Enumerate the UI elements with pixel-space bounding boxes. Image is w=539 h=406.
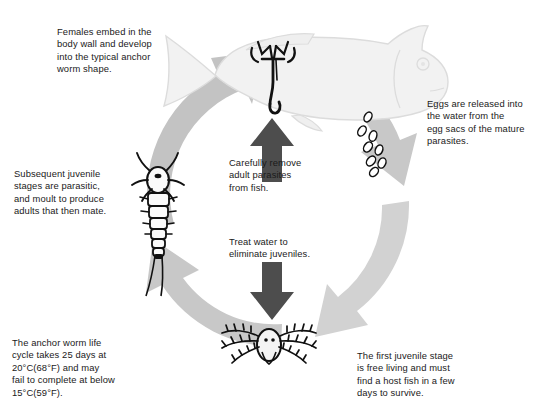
caption-subsequent-juvenile: Subsequent juvenile stages are parasitic…: [14, 168, 146, 218]
caption-first-juvenile-stage: The first juvenile stage is free living …: [357, 350, 489, 400]
caption-remove-adult-parasites: Carefully remove adult parasites from fi…: [229, 157, 349, 194]
arrow-eggs-to-nauplius: [315, 201, 409, 337]
caption-females-embed: Females embed in the body wall and devel…: [57, 26, 207, 76]
caption-eggs-released: Eggs are released into the water from th…: [427, 98, 539, 148]
caption-treat-water: Treat water to eliminate juveniles.: [229, 236, 351, 261]
caption-life-cycle-duration: The anchor worm life cycle takes 25 days…: [12, 337, 148, 399]
arrow-juvenile-to-fish: [147, 51, 265, 228]
anchor-worm-life-cycle-diagram: Females embed in the body wall and devel…: [0, 0, 539, 406]
